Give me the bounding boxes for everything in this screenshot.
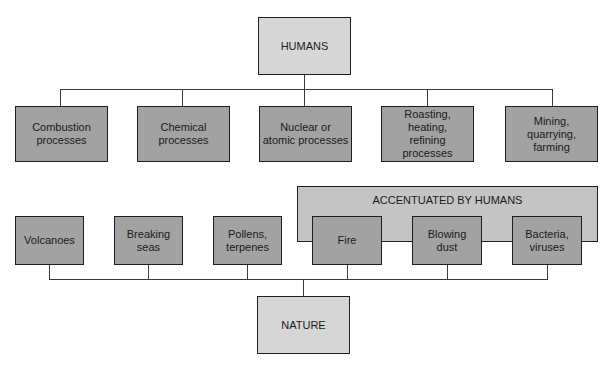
connector-pollens xyxy=(247,264,248,279)
blowing-dust-node: Blowing dust xyxy=(412,216,482,265)
fire-node: Fire xyxy=(312,216,382,265)
connector-humans-down xyxy=(304,74,305,89)
volcanoes-node: Volcanoes xyxy=(15,216,84,265)
breaking-seas-node: Breaking seas xyxy=(114,216,183,265)
connector-bacteria xyxy=(547,264,548,279)
connector-bottom-bus xyxy=(49,279,548,280)
connector-fire xyxy=(347,264,348,279)
connector-nature-up xyxy=(303,279,304,296)
chemical-processes-node: Chemical processes xyxy=(137,106,230,162)
nuclear-atomic-processes-node: Nuclear or atomic processes xyxy=(259,106,352,162)
connector-top-bus xyxy=(60,89,553,90)
nature-node: NATURE xyxy=(257,296,350,354)
connector-breaking-seas xyxy=(148,264,149,279)
connector-combustion xyxy=(60,89,61,106)
connector-nuclear xyxy=(304,89,305,106)
connector-blowing-dust xyxy=(447,264,448,279)
pollens-terpenes-node: Pollens, terpenes xyxy=(213,216,282,265)
connector-chemical xyxy=(182,89,183,106)
bacteria-viruses-node: Bacteria, viruses xyxy=(512,216,582,265)
roasting-heating-refining-node: Roasting, heating, refining processes xyxy=(381,106,474,162)
connector-roasting xyxy=(427,89,428,106)
connector-mining xyxy=(552,89,553,106)
mining-quarrying-farming-node: Mining, quarrying, farming xyxy=(505,106,598,162)
connector-volcanoes xyxy=(49,264,50,279)
humans-node: HUMANS xyxy=(258,17,351,75)
combustion-processes-node: Combustion processes xyxy=(15,106,108,162)
